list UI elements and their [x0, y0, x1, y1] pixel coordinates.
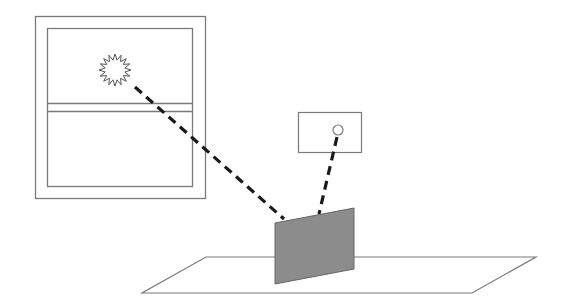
window-inner-frame [48, 29, 193, 187]
lamp-icon [333, 125, 343, 135]
window [36, 17, 206, 199]
lamp-box-frame [299, 113, 362, 153]
lamp-box [299, 113, 362, 153]
diagram-canvas [0, 0, 564, 308]
sun-icon [99, 54, 131, 86]
